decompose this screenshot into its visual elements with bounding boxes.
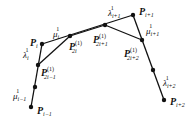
label-lambda-i+1: λi+11: [107, 5, 121, 19]
subdivision-diagram: Pi μi1 P(1)2i λi1 P(1)2i−1 μi−11 Pi−1 P(…: [0, 0, 193, 121]
point-p-i: [40, 42, 44, 46]
control-polygon-edges: [31, 15, 164, 107]
label-mu-i-1: μi−11: [12, 88, 26, 102]
point-mid-low-right: [151, 68, 155, 72]
point-p-i+2: [162, 98, 166, 102]
point-mid-low-left: [33, 85, 37, 89]
label-p-2i-1: P(1)2i−1: [41, 66, 56, 80]
label-mu-i+1: μi+11: [145, 23, 159, 37]
point-p-2i+2: [140, 38, 144, 42]
point-p-2i: [68, 34, 72, 38]
point-p-2i-1: [36, 63, 40, 67]
label-p-i: Pi: [30, 37, 38, 49]
label-lambda-i+2: λi+21: [162, 75, 176, 89]
label-p-2i+1: P(1)2i+1: [93, 33, 108, 47]
edge-refined-right: [105, 25, 142, 40]
label-p-i+2: Pi+2: [170, 96, 185, 108]
point-p-i+1: [131, 13, 135, 17]
label-p-2i: P(1)2i: [69, 40, 82, 54]
label-p-2i+2: P(1)2i+2: [124, 47, 139, 61]
label-p-i+1: Pi+1: [139, 6, 154, 18]
label-lambda-i: λi1: [22, 47, 29, 61]
label-mu-i: μi1: [52, 26, 60, 40]
point-p-i-1: [29, 105, 33, 109]
label-p-i-1: Pi−1: [37, 105, 52, 117]
point-p-2i+1: [103, 23, 107, 27]
